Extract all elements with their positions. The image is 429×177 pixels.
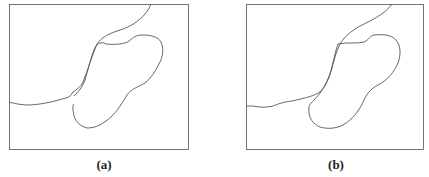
figure (0, 0, 429, 177)
panel-b-boundary-curve (246, 4, 392, 107)
panel-a-frame (10, 5, 189, 150)
panel-a-inner-curve (73, 35, 163, 128)
panel-b (246, 4, 424, 150)
panel-a-label: (a) (84, 157, 124, 173)
panel-b-label: (b) (316, 157, 356, 173)
panel-b-inner-curve (309, 35, 400, 129)
panel-a (9, 4, 189, 150)
panel-a-boundary-curve (9, 4, 151, 105)
